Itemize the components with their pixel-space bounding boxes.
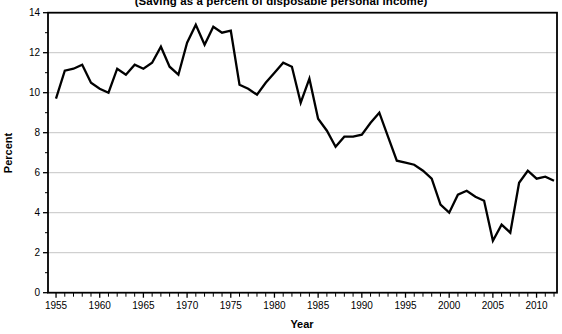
- x-tick-label: 1980: [263, 300, 286, 311]
- y-tick-label: 12: [29, 47, 41, 58]
- x-tick-label: 2000: [438, 300, 461, 311]
- x-tick-label: 1965: [132, 300, 155, 311]
- y-axis-title: Percent: [2, 132, 14, 173]
- x-tick-label: 1970: [176, 300, 199, 311]
- gridlines: [48, 53, 557, 253]
- plot-frame: [48, 13, 557, 293]
- y-tick-label: 4: [34, 207, 40, 218]
- x-tick-label: 1985: [307, 300, 330, 311]
- x-tick-label: 1995: [394, 300, 417, 311]
- saving-rate-chart-canvas: 0246810121419551960196519701975198019851…: [0, 0, 562, 334]
- y-tick-label: 14: [29, 7, 41, 18]
- y-tick-label: 10: [29, 87, 41, 98]
- x-tick-label: 1960: [89, 300, 112, 311]
- y-tick-label: 2: [34, 247, 40, 258]
- x-tick-label: 1955: [45, 300, 68, 311]
- x-tick-label: 2010: [525, 300, 548, 311]
- x-tick-label: 2005: [482, 300, 505, 311]
- y-tick-label: 0: [34, 287, 40, 298]
- y-tick-label: 8: [34, 127, 40, 138]
- x-tick-label: 1975: [220, 300, 243, 311]
- x-axis-title: Year: [290, 318, 314, 330]
- y-tick-label: 6: [34, 167, 40, 178]
- chart-figure: (Saving as a percent of disposable perso…: [0, 0, 562, 334]
- axis-ticks: [43, 13, 554, 298]
- x-tick-label: 1990: [351, 300, 374, 311]
